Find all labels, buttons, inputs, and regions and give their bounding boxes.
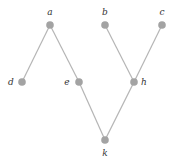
node-label-c: c <box>159 7 164 17</box>
labels-group: abcdehk <box>8 7 164 158</box>
node-c <box>158 21 166 29</box>
node-label-k: k <box>102 148 107 158</box>
node-label-a: a <box>47 7 52 17</box>
node-d <box>18 78 26 86</box>
edge-h-k <box>105 82 134 140</box>
node-a <box>46 21 54 29</box>
graph-diagram: abcdehk <box>0 0 175 162</box>
node-b <box>101 21 109 29</box>
node-label-d: d <box>8 77 14 87</box>
node-label-h: h <box>141 77 147 87</box>
edge-a-e <box>50 25 79 82</box>
edge-c-h <box>134 25 162 82</box>
node-label-b: b <box>102 7 108 17</box>
node-label-e: e <box>64 77 69 87</box>
edge-b-h <box>105 25 134 82</box>
node-e <box>75 78 83 86</box>
edge-e-k <box>79 82 105 140</box>
node-h <box>130 78 138 86</box>
edge-a-d <box>22 25 50 82</box>
node-k <box>101 136 109 144</box>
graph-svg: abcdehk <box>0 0 175 162</box>
